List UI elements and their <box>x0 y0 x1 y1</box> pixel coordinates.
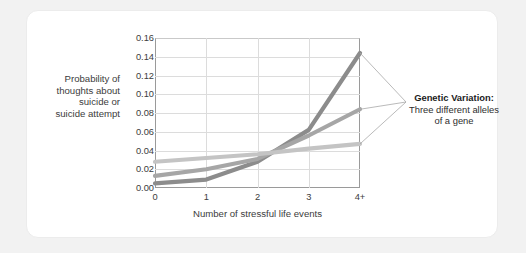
y-tick-label: 0.14 <box>94 52 154 62</box>
y-tick-label: 0.08 <box>94 108 154 118</box>
x-tick-label: 4+ <box>340 192 380 202</box>
series-line <box>155 53 360 183</box>
series-lines <box>155 38 360 188</box>
legend-line-2: Three different alleles <box>409 104 499 115</box>
y-tick-label: 0.10 <box>94 89 154 99</box>
legend-line-3: of a gene <box>434 115 473 126</box>
x-tick-label: 1 <box>186 192 226 202</box>
y-tick-label: 0.06 <box>94 127 154 137</box>
legend-title: Genetic Variation: <box>398 92 510 104</box>
plot-area: 0.000.020.040.060.080.100.120.140.16 012… <box>155 38 360 188</box>
x-axis-title: Number of stressful life events <box>193 208 322 219</box>
y-tick-label: 0.16 <box>94 33 154 43</box>
chart-figure: Data from Caspi et al. (2003) Probabilit… <box>0 0 526 253</box>
x-tick-label: 2 <box>238 192 278 202</box>
series-line <box>155 109 360 176</box>
x-tick-label: 0 <box>135 192 175 202</box>
y-tick-label: 0.04 <box>94 146 154 156</box>
legend-callout: Genetic Variation: Three different allel… <box>398 92 510 127</box>
y-tick-label: 0.02 <box>94 164 154 174</box>
y-tick-label: 0.12 <box>94 71 154 81</box>
x-tick-label: 3 <box>289 192 329 202</box>
